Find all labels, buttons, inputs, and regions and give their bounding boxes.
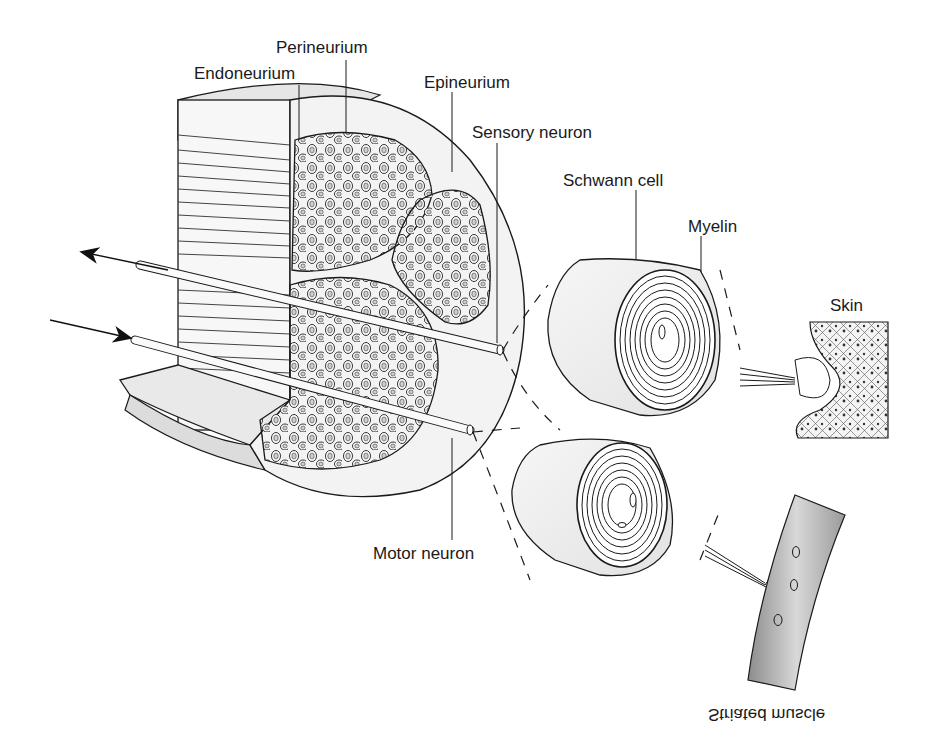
label-endoneurium: Endoneurium [194, 65, 295, 82]
label-perineurium: Perineurium [276, 39, 368, 56]
label-epineurium: Epineurium [424, 74, 510, 91]
myelinated-axon-motor [512, 439, 673, 575]
afferent-arrow [50, 320, 130, 338]
label-motor-neuron: Motor neuron [373, 545, 474, 562]
diagram-canvas [0, 0, 930, 742]
label-schwann-cell: Schwann cell [563, 172, 663, 189]
nerve-diagram: Perineurium Endoneurium Epineurium Senso… [0, 0, 930, 742]
myelinated-axon-sensory [548, 259, 720, 416]
efferent-arrow [82, 252, 168, 270]
label-myelin: Myelin [688, 218, 737, 235]
label-striated-muscle: Striated muscle [708, 706, 825, 723]
sensory-nerve-ending [740, 358, 830, 398]
label-skin: Skin [830, 297, 863, 314]
label-sensory-neuron: Sensory neuron [472, 124, 592, 141]
striated-muscle-fiber [748, 495, 845, 690]
